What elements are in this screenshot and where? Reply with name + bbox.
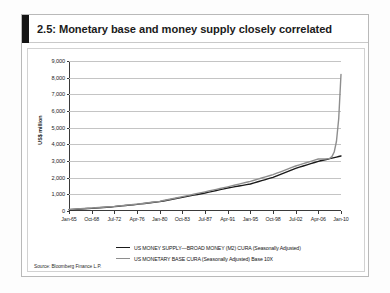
x-tick-mark — [296, 211, 297, 214]
legend-item[interactable]: US MONETARY BASE CURA (Seasonally Adjust… — [28, 253, 364, 264]
x-tick-label: Oct-68 — [84, 216, 99, 222]
x-tick-label: Apr-06 — [311, 216, 326, 222]
y-tick-label: 9,000 — [52, 58, 66, 64]
x-tick-label: Jul-72 — [108, 216, 122, 222]
page-title: 2.5: Monetary base and money supply clos… — [29, 23, 332, 35]
y-tick-label: 0 — [62, 208, 65, 214]
y-tick-label: 2,000 — [52, 175, 66, 181]
plot-area: 01,0002,0003,0004,0005,0006,0007,0008,00… — [69, 61, 341, 211]
x-tick-label: Jan-95 — [243, 216, 258, 222]
x-tick-mark — [273, 211, 274, 214]
source-note: Source: Bloomberg Finance L.P. — [34, 264, 101, 269]
x-tick-label: Jan-10 — [333, 216, 348, 222]
legend-swatch — [116, 247, 130, 249]
x-tick-label: Oct-98 — [266, 216, 281, 222]
y-tick-label: 8,000 — [52, 75, 66, 81]
figure-screenshot: 2.5: Monetary base and money supply clos… — [0, 0, 390, 293]
x-tick-label: Jul-02 — [289, 216, 303, 222]
title-accent-bar — [22, 15, 29, 43]
x-tick-label: Jan-80 — [152, 216, 167, 222]
y-tick-label: 7,000 — [52, 91, 66, 97]
x-tick-label: Apr-76 — [130, 216, 145, 222]
series-line — [69, 74, 341, 209]
legend-item[interactable]: US MONEY SUPPLY—BROAD MONEY (M2) CURA (S… — [28, 242, 364, 253]
x-tick-label: Oct-83 — [175, 216, 190, 222]
chart-card: US$ million 01,0002,0003,0004,0005,0006,… — [27, 48, 365, 272]
x-tick-mark — [228, 211, 229, 214]
x-tick-mark — [114, 211, 115, 214]
x-tick-label: Jan-65 — [61, 216, 76, 222]
x-tick-mark — [69, 211, 70, 214]
x-tick-mark — [137, 211, 138, 214]
legend-swatch — [116, 258, 130, 260]
x-tick-mark — [205, 211, 206, 214]
x-tick-label: Jul-87 — [198, 216, 212, 222]
x-tick-mark — [318, 211, 319, 214]
x-tick-mark — [160, 211, 161, 214]
y-tick-label: 6,000 — [52, 108, 66, 114]
x-tick-mark — [250, 211, 251, 214]
chart-legend: US MONEY SUPPLY—BROAD MONEY (M2) CURA (S… — [28, 242, 364, 264]
figure-title-band: 2.5: Monetary base and money supply clos… — [22, 15, 368, 43]
y-axis-title: US$ million — [37, 100, 43, 160]
legend-label: US MONETARY BASE CURA (Seasonally Adjust… — [134, 256, 273, 262]
x-tick-mark — [182, 211, 183, 214]
x-tick-mark — [92, 211, 93, 214]
legend-label: US MONEY SUPPLY—BROAD MONEY (M2) CURA (S… — [134, 245, 301, 251]
y-tick-label: 1,000 — [52, 191, 66, 197]
y-tick-label: 5,000 — [52, 125, 66, 131]
x-tick-label: Apr-91 — [220, 216, 235, 222]
y-tick-label: 3,000 — [52, 158, 66, 164]
y-tick-label: 4,000 — [52, 141, 66, 147]
x-tick-mark — [341, 211, 342, 214]
series-lines — [69, 61, 341, 211]
figure-container: 2.5: Monetary base and money supply clos… — [21, 14, 369, 277]
